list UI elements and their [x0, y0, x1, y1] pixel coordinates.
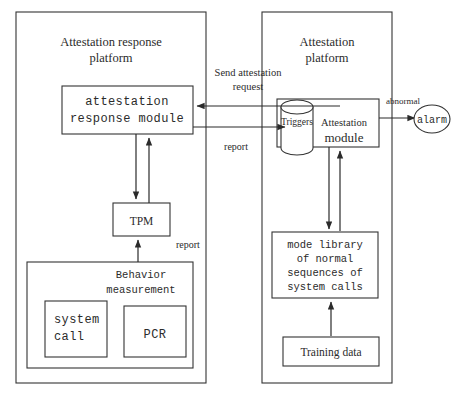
tpm-report-label: report	[176, 239, 200, 250]
left-platform-title-line2: platform	[89, 51, 132, 65]
send-request-label-line2: request	[233, 81, 263, 92]
attestation-module-label-line2: module	[325, 130, 364, 145]
behavior-measurement-title-line1: Behavior	[116, 269, 166, 281]
system-call-label-line2: call	[54, 330, 84, 344]
alarm-label: alarm	[417, 115, 447, 126]
system-call-box	[45, 301, 107, 357]
triggers-datastore: Triggers	[281, 100, 313, 155]
right-platform-container	[262, 12, 392, 383]
tpm-label: TPM	[130, 215, 154, 227]
triggers-label: Triggers	[281, 117, 313, 127]
right-platform-title-line1: Attestation	[300, 35, 356, 49]
attestation-response-module-label-line2: response module	[70, 112, 184, 126]
attestation-module-label-line1: Attestation	[321, 117, 368, 128]
mode-library-label-line3: sequences of	[287, 267, 363, 279]
architecture-diagram: Attestation response platform attestatio…	[0, 0, 457, 399]
attestation-response-module-label-line1: attestation	[85, 95, 169, 109]
training-data-label: Training data	[300, 346, 361, 359]
mode-library-label-line4: system calls	[287, 281, 363, 293]
pcr-label: PCR	[144, 328, 167, 342]
mode-library-label-line1: mode library	[287, 239, 363, 251]
mode-library-label-line2: of normal	[297, 253, 354, 265]
left-platform-title-line1: Attestation response	[60, 35, 162, 49]
abnormal-label: abnormal	[386, 96, 420, 106]
send-request-label-line1: Send attestation	[215, 67, 283, 78]
system-call-label-line1: system	[54, 313, 100, 327]
behavior-measurement-title-line2: measurement	[106, 284, 175, 296]
diagram-canvas: Attestation response platform attestatio…	[0, 0, 457, 399]
attestation-response-module-box	[62, 86, 193, 134]
report-edge-label: report	[224, 141, 248, 152]
right-platform-title-line2: platform	[305, 51, 348, 65]
